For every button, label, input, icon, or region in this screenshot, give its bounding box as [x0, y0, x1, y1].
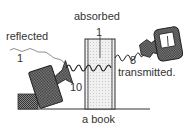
transmitted-value: 8 [130, 54, 136, 66]
transmitted-label: transmitted. [118, 66, 175, 78]
reflected-value: 1 [17, 52, 23, 64]
reflected-label: reflected [6, 30, 48, 42]
book-label: a book [82, 113, 115, 125]
incident-value: 10 [70, 81, 82, 93]
speaker-stand [18, 94, 38, 109]
absorbed-label: absorbed [74, 10, 120, 22]
meter-microphone-icon [137, 26, 183, 65]
absorbed-value: 1 [96, 26, 102, 38]
